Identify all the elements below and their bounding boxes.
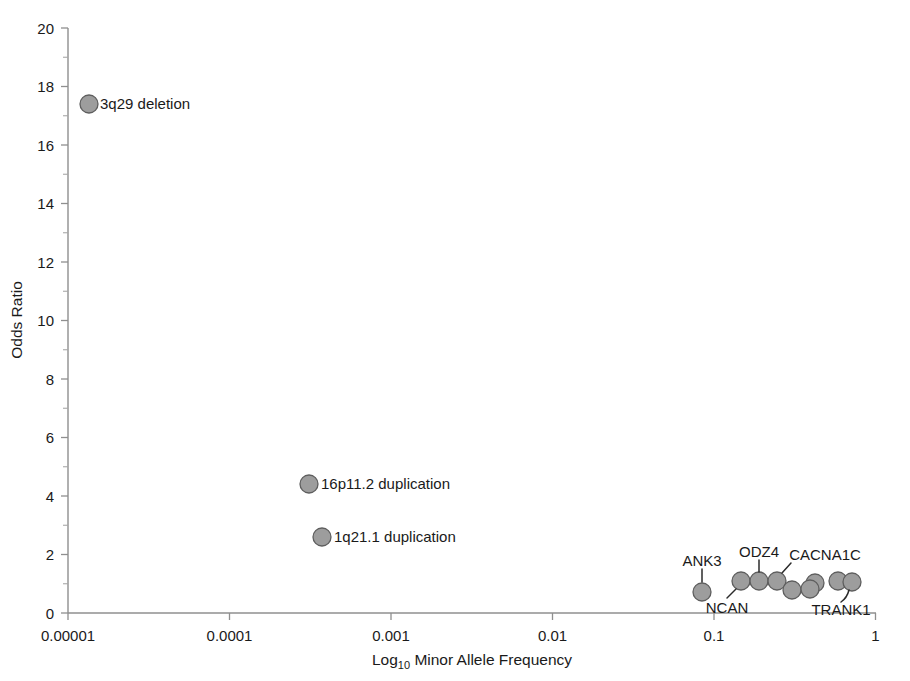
- x-axis: 0.00001 0.0001 0.001 0.01 0.1 1 Log10 Mi…: [41, 613, 880, 671]
- data-point-1q21-1-duplication[interactable]: [313, 528, 331, 546]
- y-tick-label-0: 0: [46, 605, 54, 622]
- point-label-ncan: NCAN: [706, 599, 749, 616]
- point-label-16p11-2-duplication: 16p11.2 duplication: [321, 475, 450, 492]
- data-point-unlabeled-3[interactable]: [801, 580, 819, 598]
- point-label-3q29-deletion: 3q29 deletion: [100, 95, 190, 112]
- point-label-ank3: ANK3: [682, 552, 721, 569]
- data-point-trank1[interactable]: [843, 573, 861, 591]
- leader-line-cacna1c: [782, 563, 791, 573]
- point-label-odz4: ODZ4: [739, 543, 779, 560]
- y-tick-label-18: 18: [37, 78, 54, 95]
- data-point-16p11-2-duplication[interactable]: [300, 475, 318, 493]
- point-label-1q21-1-duplication: 1q21.1 duplication: [334, 528, 456, 545]
- x-axis-title-subscript: 10: [398, 659, 410, 671]
- y-tick-label-20: 20: [37, 20, 54, 37]
- data-point-ncan[interactable]: [732, 572, 750, 590]
- x-tick-label-1e-4: 0.0001: [207, 627, 253, 644]
- y-tick-label-14: 14: [37, 195, 54, 212]
- x-tick-label-1: 1: [871, 627, 879, 644]
- y-tick-label-12: 12: [37, 254, 54, 271]
- plot-canvas: 0 2 4 6 8 10 12 14 16 18 20 Odds Ratio 0…: [0, 0, 910, 681]
- data-point-unlabeled-1[interactable]: [783, 581, 801, 599]
- scatter-plot-figure: 0 2 4 6 8 10 12 14 16 18 20 Odds Ratio 0…: [0, 0, 910, 681]
- point-labels: 3q29 deletion 16p11.2 duplication 1q21.1…: [100, 95, 871, 618]
- leader-line-ncan: [727, 589, 736, 598]
- y-axis-title: Odds Ratio: [8, 281, 25, 359]
- x-axis-title-base: Log: [372, 651, 398, 668]
- x-axis-title: Log10 Minor Allele Frequency: [372, 651, 572, 671]
- data-points: [80, 95, 861, 601]
- point-label-cacna1c: CACNA1C: [789, 546, 861, 563]
- x-tick-label-1e-5: 0.00001: [41, 627, 95, 644]
- x-axis-title-rest: Minor Allele Frequency: [410, 651, 572, 668]
- x-tick-label-1e-3: 0.001: [372, 627, 410, 644]
- y-axis: 0 2 4 6 8 10 12 14 16 18 20 Odds Ratio: [8, 20, 68, 622]
- y-tick-label-6: 6: [46, 429, 54, 446]
- y-tick-label-4: 4: [46, 488, 54, 505]
- point-label-trank1: TRANK1: [811, 601, 870, 618]
- data-point-3q29-deletion[interactable]: [80, 95, 98, 113]
- x-tick-label-1e-1: 0.1: [704, 627, 725, 644]
- y-tick-label-8: 8: [46, 371, 54, 388]
- data-point-odz4[interactable]: [750, 572, 768, 590]
- y-tick-label-10: 10: [37, 312, 54, 329]
- y-tick-label-2: 2: [46, 546, 54, 563]
- y-tick-label-16: 16: [37, 137, 54, 154]
- x-tick-label-1e-2: 0.01: [538, 627, 567, 644]
